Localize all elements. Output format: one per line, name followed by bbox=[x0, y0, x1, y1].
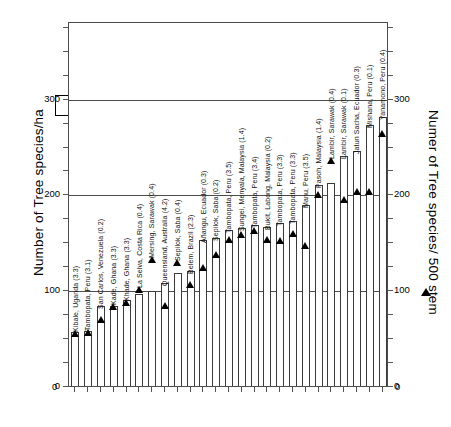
x-tick-3 bbox=[113, 387, 114, 392]
marker-11 bbox=[212, 251, 220, 258]
y-tick-label-left-200: 200 bbox=[34, 188, 60, 199]
bar-label-18: Manu, Peru (3.5) bbox=[302, 154, 309, 208]
marker-12 bbox=[225, 236, 233, 243]
bar-7 bbox=[161, 283, 169, 386]
y-tick-left-350 bbox=[63, 51, 68, 52]
bar-label-10: Añangu, Ecuador (0.3) bbox=[200, 171, 207, 244]
y-tick-left-275 bbox=[63, 123, 68, 124]
y-tick-right-300 bbox=[388, 99, 393, 100]
y-tick-right-225 bbox=[388, 170, 393, 171]
bar-label-7: Queensland, Australia (4.2) bbox=[161, 198, 168, 286]
y-tick-left-250 bbox=[63, 147, 68, 148]
bar-label-3: Kade, Ghana (3.3) bbox=[110, 245, 117, 304]
marker-18 bbox=[301, 242, 309, 249]
bar-10 bbox=[199, 240, 207, 386]
marker-21 bbox=[340, 196, 348, 203]
x-tick-0 bbox=[74, 387, 75, 392]
y-tick-left-300 bbox=[63, 99, 68, 100]
marker-9 bbox=[186, 281, 194, 288]
y-tick-left-125 bbox=[63, 266, 68, 267]
bar-22 bbox=[353, 151, 361, 386]
bar-16 bbox=[276, 223, 284, 386]
chart-root: Number of Tree species/ha Numer of Tree … bbox=[0, 0, 451, 427]
x-tick-17 bbox=[292, 387, 293, 392]
bar-label-23: Mishana, Peru (0.1) bbox=[366, 65, 373, 128]
y-tick-right-150 bbox=[388, 242, 393, 243]
bar-21 bbox=[340, 156, 348, 386]
y-tick-label-left-300: 300 bbox=[34, 93, 60, 104]
marker-10 bbox=[199, 264, 207, 271]
bar-label-11: Sepilok, Saba (0.2) bbox=[212, 179, 219, 240]
x-tick-23 bbox=[369, 387, 370, 392]
bar-label-4: Khade, Ghana (3.3) bbox=[123, 237, 130, 300]
marker-19 bbox=[314, 191, 322, 198]
bar-label-8: Sepilok, Saba (0.4) bbox=[174, 200, 181, 261]
x-tick-12 bbox=[228, 387, 229, 392]
bar-23 bbox=[366, 125, 374, 386]
zero-label-right: 0 bbox=[395, 381, 400, 392]
bar-11 bbox=[212, 238, 220, 386]
y-tick-right-275 bbox=[388, 123, 393, 124]
y-tick-right-125 bbox=[388, 266, 393, 267]
marker-2 bbox=[97, 316, 105, 323]
marker-17 bbox=[289, 230, 297, 237]
bar-label-1: Tambopata, Peru (3.1) bbox=[84, 260, 91, 332]
y-tick-label-right-100: 100 bbox=[394, 284, 420, 295]
y-tick-left-225 bbox=[63, 170, 68, 171]
bar-3 bbox=[110, 306, 118, 386]
marker-22 bbox=[353, 188, 361, 195]
y-tick-left-25 bbox=[63, 362, 68, 363]
bar-label-5: La Selva, Costa Rica (0.4) bbox=[136, 204, 143, 288]
y-tick-left-0 bbox=[63, 386, 68, 387]
y-tick-right-200 bbox=[388, 194, 393, 195]
y-tick-right-325 bbox=[388, 75, 393, 76]
bar-19 bbox=[315, 185, 323, 386]
bar-17 bbox=[289, 221, 297, 386]
x-tick-2 bbox=[100, 387, 101, 392]
marker-7 bbox=[161, 302, 169, 309]
bar-15 bbox=[263, 227, 271, 386]
marker-24 bbox=[378, 130, 386, 137]
y-tick-label-right-200: 200 bbox=[394, 188, 420, 199]
bar-1 bbox=[84, 331, 92, 386]
y-tick-left-150 bbox=[63, 242, 68, 243]
bar-8 bbox=[174, 273, 182, 386]
zero-label-left: 0 bbox=[52, 381, 57, 392]
y-tick-left-200 bbox=[63, 194, 68, 195]
x-tick-20 bbox=[330, 387, 331, 392]
x-tick-8 bbox=[177, 387, 178, 392]
bar-13 bbox=[238, 228, 246, 386]
x-tick-15 bbox=[266, 387, 267, 392]
bar-label-22: Jatun Sacha, Ecuador (0.3) bbox=[353, 66, 360, 154]
marker-16 bbox=[276, 237, 284, 244]
bar-4 bbox=[123, 300, 131, 386]
marker-23 bbox=[365, 188, 373, 195]
bar-24 bbox=[379, 117, 387, 386]
y-tick-right-175 bbox=[388, 218, 393, 219]
bar-label-16: Tambopata, Peru (3.3) bbox=[276, 154, 283, 226]
x-tick-6 bbox=[151, 387, 152, 392]
x-tick-24 bbox=[382, 387, 383, 392]
bar-6 bbox=[148, 291, 156, 386]
x-tick-11 bbox=[215, 387, 216, 392]
bar-label-20: Lambir, Sarawak (0.4) bbox=[328, 88, 335, 159]
y-tick-right-350 bbox=[388, 51, 393, 52]
marker-13 bbox=[237, 231, 245, 238]
y-tick-right-50 bbox=[388, 338, 393, 339]
bar-label-2: San Carlos, Venezuela (0.2) bbox=[97, 218, 104, 308]
y-tick-right-250 bbox=[388, 147, 393, 148]
y-tick-left-175 bbox=[63, 218, 68, 219]
x-tick-10 bbox=[202, 387, 203, 392]
marker-15 bbox=[263, 236, 271, 243]
x-tick-4 bbox=[126, 387, 127, 392]
y-tick-label-right-300: 300 bbox=[394, 93, 420, 104]
x-tick-19 bbox=[318, 387, 319, 392]
bar-0 bbox=[71, 332, 79, 386]
bar-label-6: Mersing, Sarawak (0.4) bbox=[148, 183, 155, 258]
y-tick-right-25 bbox=[388, 362, 393, 363]
bar-5 bbox=[135, 294, 143, 386]
x-tick-18 bbox=[305, 387, 306, 392]
x-tick-9 bbox=[190, 387, 191, 392]
x-tick-13 bbox=[241, 387, 242, 392]
legend-black-triangle-icon bbox=[421, 288, 431, 296]
